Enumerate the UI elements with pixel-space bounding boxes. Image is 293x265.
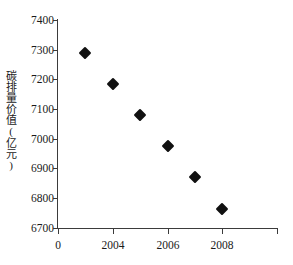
y-tick-label-6800: 6800 [31,193,54,205]
data-point-marker [161,140,174,153]
y-tick-label-7300: 7300 [31,45,54,57]
data-point-marker [106,78,119,91]
y-tick-label-7400: 7400 [31,15,54,27]
x-tick-label-2006: 2006 [157,240,180,252]
x-tick-mark [58,229,59,234]
x-tick-mark [168,229,169,234]
y-tick-label-7000: 7000 [31,134,54,146]
x-tick-label-0: 0 [55,240,61,252]
y-tick-label-7200: 7200 [31,74,54,86]
x-tick-label-2004: 2004 [102,240,125,252]
scatter-chart-figure: 碳排量价值(亿元) 7400 7300 7200 7100 7000 6900 … [0,0,293,265]
data-point-marker [134,109,147,122]
data-point-marker [189,171,202,184]
y-tick-label-6700: 6700 [31,223,54,235]
x-tick-mark [113,229,114,234]
y-tick-label-7100: 7100 [31,104,54,116]
x-tick-mark [222,229,223,234]
y-axis-line [57,19,58,229]
data-point-marker [216,202,229,215]
x-tick-label-2008: 2008 [211,240,234,252]
data-point-marker [79,46,92,59]
y-tick-label-6900: 6900 [31,163,54,175]
y-axis-title: 碳排量价值(亿元) [2,50,20,190]
x-tick-mark [277,229,278,234]
